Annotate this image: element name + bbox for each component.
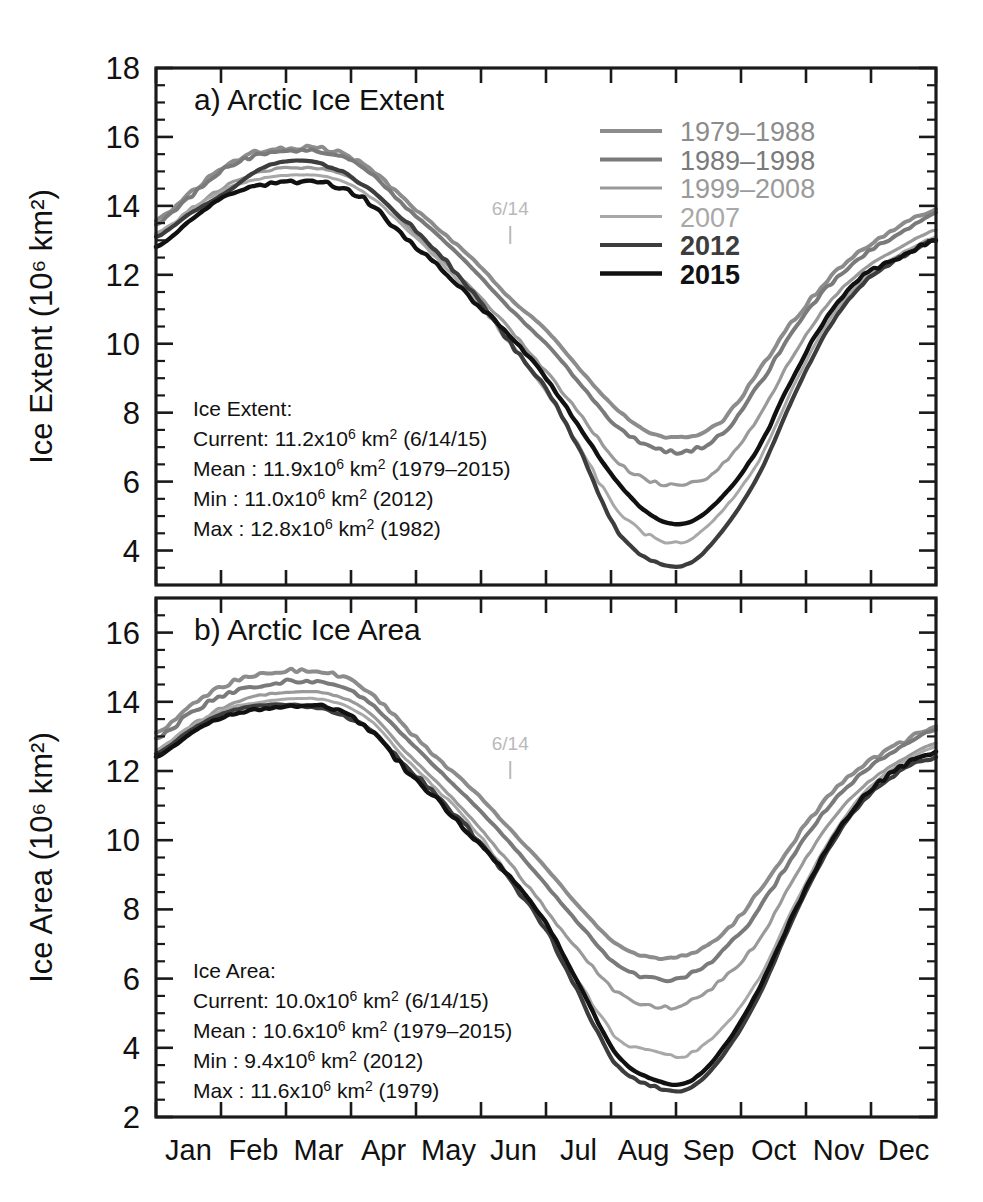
y-tick-label: 16 (106, 120, 140, 155)
y-tick-label: 2 (123, 1100, 140, 1135)
x-tick-label-oct: Oct (751, 1134, 796, 1166)
y-tick-label: 14 (106, 685, 140, 720)
stats-heading-b: Ice Area: (193, 959, 276, 982)
x-tick-label-feb: Feb (229, 1134, 279, 1166)
panel-title-b: b) Arctic Ice Area (194, 613, 421, 646)
y-tick-label: 4 (123, 1031, 140, 1066)
stats-row: Current: 10.0x106 km2 (6/14/15) (193, 988, 489, 1012)
stats-row: Mean : 11.9x106 km2 (1979–2015) (193, 456, 511, 480)
x-tick-label-jun: Jun (490, 1134, 537, 1166)
y-tick-label: 10 (106, 823, 140, 858)
legend: 1979–19881989–19981999–2008200720122015 (600, 117, 815, 290)
x-tick-label-mar: Mar (294, 1134, 344, 1166)
y-tick-label: 10 (106, 327, 140, 362)
y-tick-label: 18 (106, 51, 140, 86)
y-tick-label: 6 (123, 962, 140, 997)
arctic-sea-ice-figure: 1816141210864a) Arctic Ice ExtentIce Ext… (0, 0, 983, 1202)
x-tick-label-jul: Jul (560, 1134, 597, 1166)
stats-heading-a: Ice Extent: (193, 397, 292, 420)
x-tick-label-aug: Aug (618, 1134, 670, 1166)
series-line-1989-1998 (156, 680, 936, 982)
x-tick-label-apr: Apr (361, 1134, 406, 1166)
x-tick-label-nov: Nov (813, 1134, 865, 1166)
stats-row: Max : 12.8x106 km2 (1982) (193, 516, 441, 540)
legend-label-1979-1988: 1979–1988 (680, 117, 815, 147)
x-tick-label-may: May (421, 1134, 476, 1166)
legend-label-2012: 2012 (680, 231, 740, 261)
x-tick-label-sep: Sep (683, 1134, 735, 1166)
stats-row: Max : 11.6x106 km2 (1979) (193, 1078, 439, 1102)
series-line-1979-1988 (156, 146, 936, 438)
y-tick-label: 8 (123, 396, 140, 431)
stats-row: Min : 9.4x106 km2 (2012) (193, 1048, 423, 1072)
x-tick-label-jan: Jan (165, 1134, 212, 1166)
stats-row: Min : 11.0x106 km2 (2012) (193, 486, 433, 510)
x-tick-label-dec: Dec (878, 1134, 930, 1166)
legend-label-1989-1998: 1989–1998 (680, 146, 815, 176)
legend-label-1999-2008: 1999–2008 (680, 174, 815, 204)
y-axis-title-a: Ice Extent (10⁶ km²) (24, 189, 59, 464)
y-tick-label: 12 (106, 754, 140, 789)
annotation-6-14: 6/14 (492, 733, 529, 754)
annotation-6-14: 6/14 (492, 198, 529, 219)
panel-b: 161412108642b) Arctic Ice AreaIce Area (… (24, 598, 936, 1135)
x-axis-labels: JanFebMarAprMayJunJulAugSepOctNovDec (165, 1134, 929, 1166)
y-tick-label: 4 (123, 534, 140, 569)
legend-label-2007: 2007 (680, 203, 740, 233)
y-tick-label: 6 (123, 465, 140, 500)
series-line-1979-1988 (156, 669, 936, 959)
panel-title-a: a) Arctic Ice Extent (194, 83, 445, 116)
y-tick-label: 16 (106, 616, 140, 651)
y-tick-label: 12 (106, 258, 140, 293)
legend-label-2015: 2015 (680, 260, 740, 290)
y-tick-label: 8 (123, 892, 140, 927)
chart-canvas: 1816141210864a) Arctic Ice ExtentIce Ext… (0, 0, 983, 1202)
stats-row: Mean : 10.6x106 km2 (1979–2015) (193, 1018, 512, 1042)
stats-row: Current: 11.2x106 km2 (6/14/15) (193, 426, 487, 450)
y-tick-label: 14 (106, 189, 140, 224)
y-axis-title-b: Ice Area (10⁶ km²) (24, 732, 59, 983)
